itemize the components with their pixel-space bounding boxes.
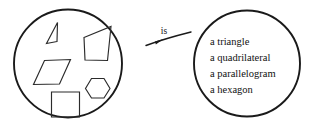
name-line-triangle: a triangle	[210, 36, 250, 47]
quadrilateral-shape	[84, 27, 111, 61]
is-relation-arrow: is	[146, 26, 191, 46]
parallelogram-shape	[34, 60, 71, 85]
relation-label: is	[161, 26, 168, 36]
diagram-svg: is a triangle a quadrilateral a parallel…	[0, 0, 323, 127]
right-set-group: a triangle a quadrilateral a parallelogr…	[194, 11, 300, 117]
figure-canvas: is a triangle a quadrilateral a parallel…	[0, 0, 323, 127]
left-set-group	[14, 10, 122, 118]
arrow-curve-line	[146, 32, 191, 46]
left-set-circle	[14, 10, 122, 118]
name-line-hexagon: a hexagon	[210, 84, 254, 95]
arrow-head-icon	[155, 39, 164, 45]
hexagon-shape	[86, 79, 111, 99]
name-line-parallelogram: a parallelogram	[210, 68, 276, 79]
triangle-shape	[47, 23, 58, 44]
square-shape	[52, 92, 80, 117]
name-line-quadrilateral: a quadrilateral	[210, 52, 270, 63]
right-set-circle	[194, 11, 300, 117]
